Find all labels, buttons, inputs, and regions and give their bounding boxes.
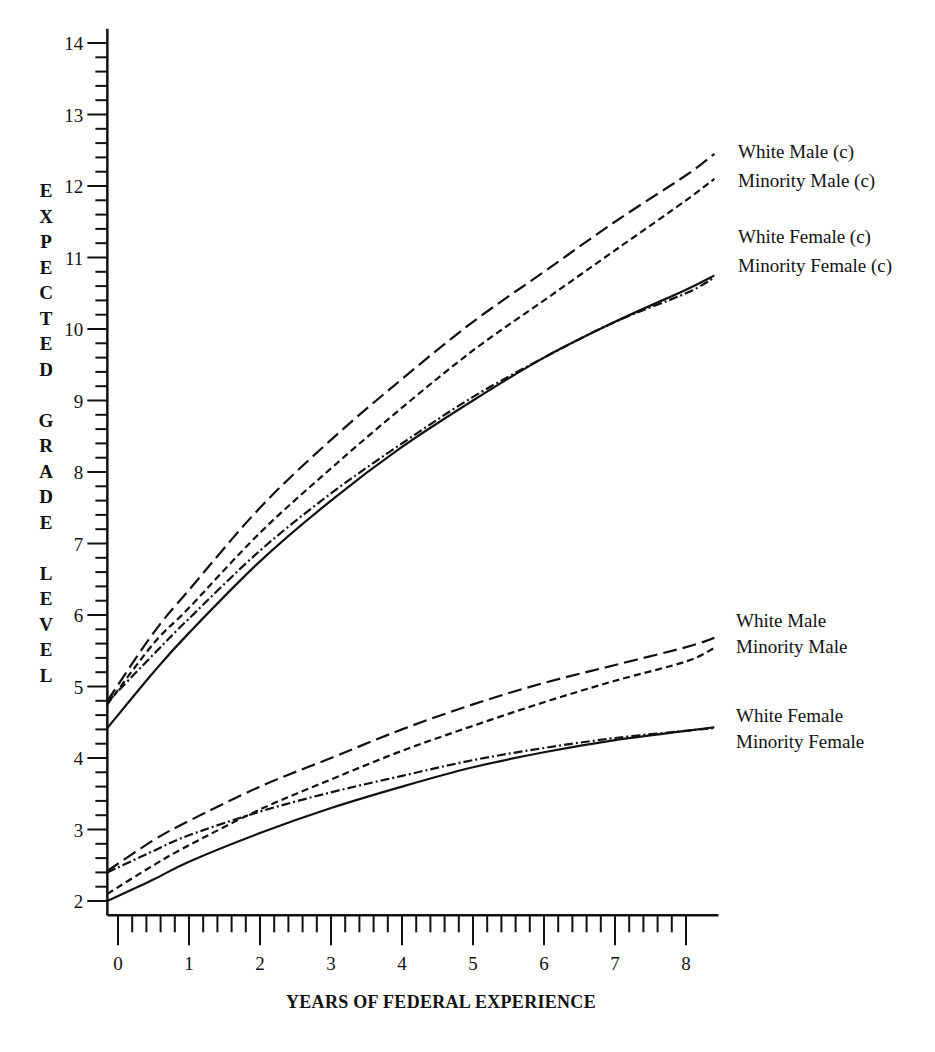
y-axis-title-letter: P (34, 229, 58, 255)
series-lines (107, 154, 714, 901)
series-line-white-male (107, 638, 714, 871)
x-tick-label: 0 (113, 953, 123, 974)
y-tick-label: 13 (64, 105, 83, 126)
y-tick-label: 2 (74, 891, 84, 912)
y-axis-title-letter: T (34, 306, 58, 332)
series-line-white-female (107, 727, 714, 901)
y-tick-label: 4 (74, 748, 84, 769)
y-tick-label: 8 (74, 462, 84, 483)
label-minority-male-c: Minority Male (c) (738, 170, 875, 192)
y-tick-label: 10 (64, 319, 83, 340)
series-line-minority-female (107, 728, 714, 872)
y-tick-label: 14 (64, 33, 84, 54)
y-axis-title-letter: E (34, 178, 58, 204)
label-minority-female: Minority Female (736, 731, 864, 753)
x-tick-label: 2 (255, 953, 265, 974)
y-axis-title-letter: E (34, 510, 58, 536)
x-axis-title: YEARS OF FEDERAL EXPERIENCE (286, 992, 596, 1013)
y-tick-label: 12 (64, 176, 83, 197)
y-axis-title-letter: L (34, 561, 58, 587)
series-line-white-male-c (107, 154, 714, 701)
y-axis-title-letter (34, 382, 58, 408)
y-tick-label: 11 (65, 248, 83, 269)
y-axis-title-letter: G (34, 408, 58, 434)
label-minority-female-c: Minority Female (c) (738, 255, 892, 277)
y-axis-title-letter: E (34, 586, 58, 612)
series-line-minority-female-c (107, 278, 714, 703)
y-axis-title-letter: D (34, 357, 58, 383)
y-axis-title-letter: E (34, 255, 58, 281)
y-axis-title-letter: R (34, 433, 58, 459)
x-tick-label: 7 (610, 953, 620, 974)
y-tick-label: 9 (74, 391, 84, 412)
y-tick-label: 5 (74, 677, 84, 698)
label-white-female-c: White Female (c) (738, 226, 871, 248)
axes: 234567891011121314012345678 (64, 29, 718, 975)
y-axis-title-letter: V (34, 612, 58, 638)
y-axis-title-letter: X (34, 204, 58, 230)
label-minority-male: Minority Male (736, 636, 847, 658)
y-axis-title-letter: E (34, 331, 58, 357)
label-white-male-c: White Male (c) (738, 141, 854, 163)
x-tick-label: 8 (681, 953, 691, 974)
x-tick-label: 4 (397, 953, 407, 974)
y-tick-label: 3 (74, 820, 84, 841)
x-tick-label: 1 (184, 953, 194, 974)
y-axis-title-letter: D (34, 484, 58, 510)
y-tick-label: 6 (74, 605, 84, 626)
label-white-female: White Female (736, 705, 843, 727)
x-tick-label: 3 (326, 953, 336, 974)
y-axis-title-letter: A (34, 459, 58, 485)
y-axis-title: EXPECTED GRADE LEVEL (34, 178, 58, 688)
series-line-white-female-c (107, 275, 714, 728)
y-axis-title-letter: E (34, 637, 58, 663)
x-tick-label: 5 (468, 953, 478, 974)
y-tick-label: 7 (74, 534, 84, 555)
x-tick-label: 6 (539, 953, 549, 974)
y-axis-title-letter: C (34, 280, 58, 306)
y-axis-title-letter (34, 535, 58, 561)
y-axis-title-letter: L (34, 663, 58, 689)
label-white-male: White Male (736, 610, 826, 632)
